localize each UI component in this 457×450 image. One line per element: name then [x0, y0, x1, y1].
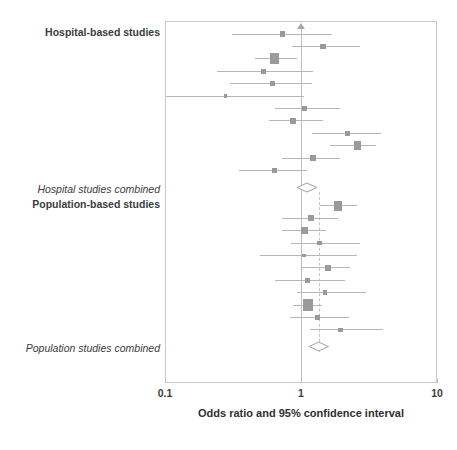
axis-tick-mark: [165, 379, 166, 383]
group-heading: Hospital-based studies: [45, 26, 160, 38]
null-reference-line: [301, 26, 302, 382]
study-effect-marker: [303, 299, 312, 311]
axis-tick-label: 0.1: [158, 387, 173, 399]
study-effect-marker: [317, 241, 321, 245]
study-effect-marker: [290, 118, 296, 124]
study-effect-marker: [261, 69, 266, 74]
group-heading: Population-based studies: [32, 198, 160, 210]
population-pooled-line: [319, 192, 320, 351]
study-effect-marker: [270, 81, 275, 86]
pooled-estimate-diamond: [309, 341, 329, 352]
axis-tick-mark: [437, 379, 438, 383]
study-effect-marker: [308, 215, 314, 221]
summary-row-label: Population studies combined: [26, 342, 160, 354]
forest-plot-figure: Hospital-based studiesHospital studies c…: [0, 0, 457, 450]
study-effect-marker: [320, 44, 325, 49]
study-effect-marker: [270, 53, 279, 64]
pooled-estimate-diamond: [297, 182, 317, 193]
axis-caption: Odds ratio and 95% confidence interval: [198, 407, 404, 419]
summary-row-label: Hospital studies combined: [37, 183, 160, 195]
confidence-interval-line: [292, 46, 360, 47]
study-effect-marker: [302, 254, 306, 258]
axis-tick-label: 10: [431, 387, 443, 399]
confidence-interval-line: [297, 292, 366, 293]
study-effect-marker: [323, 290, 327, 294]
study-effect-marker: [301, 227, 308, 234]
study-effect-marker: [345, 131, 350, 136]
confidence-interval-line: [260, 255, 357, 256]
axis-tick-mark: [301, 379, 302, 383]
study-effect-marker: [310, 155, 316, 161]
confidence-interval-line: [310, 329, 383, 330]
confidence-interval-line: [166, 96, 304, 97]
confidence-interval-line: [291, 243, 360, 244]
study-effect-marker: [224, 94, 227, 97]
study-effect-marker: [315, 315, 320, 320]
study-effect-marker: [354, 141, 362, 151]
study-effect-marker: [280, 31, 285, 36]
study-effect-marker: [302, 106, 307, 111]
confidence-interval-line: [275, 108, 340, 109]
study-effect-marker: [305, 278, 310, 283]
study-effect-marker: [334, 201, 342, 210]
axis-arrow-icon: [297, 23, 305, 29]
study-effect-marker: [325, 265, 331, 271]
study-effect-marker: [272, 168, 277, 173]
axis-tick-label: 1: [298, 387, 304, 399]
study-effect-marker: [338, 328, 342, 332]
